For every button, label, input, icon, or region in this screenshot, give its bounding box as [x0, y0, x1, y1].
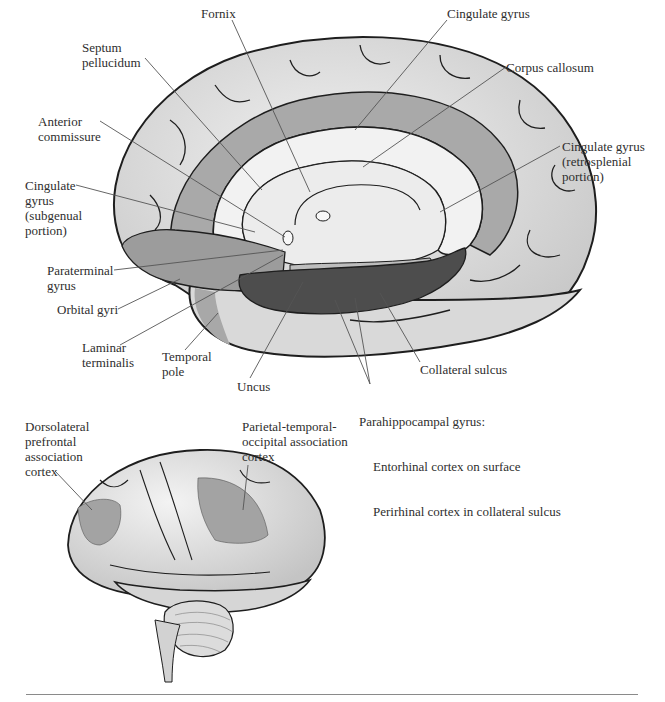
label-corpus-callosum: Corpus callosum [506, 60, 594, 75]
entorhinal-line: Entorhinal cortex on surface [359, 459, 561, 474]
label-cingulate-gyrus: Cingulate gyrus [447, 6, 530, 21]
label-orbital-gyri: Orbital gyri [57, 302, 118, 317]
mammillary-shape [316, 211, 330, 221]
label-laminar-terminalis: Laminar terminalis [82, 340, 134, 370]
label-fornix: Fornix [201, 6, 236, 21]
parahippocampal-title: Parahippocampal gyrus: [359, 414, 561, 429]
label-septum-pellucidum: Septum pellucidum [82, 40, 141, 70]
label-temporal-pole: Temporal pole [162, 349, 212, 379]
perirhinal-line: Perirhinal cortex in collateral sulcus [359, 504, 561, 519]
label-anterior-commissure: Anterior commissure [38, 114, 101, 144]
label-dorsolateral-prefrontal: Dorsolateral prefrontal association cort… [25, 419, 89, 479]
label-cingulate-subgenual: Cingulate gyrus (subgenual portion) [25, 178, 82, 238]
label-collateral-sulcus: Collateral sulcus [420, 362, 507, 377]
brainstem [155, 620, 180, 682]
bottom-rule [26, 694, 638, 695]
anterior-commissure-shape [283, 231, 293, 245]
label-parietal-temporal-occipital: Parietal-temporal- occipital association… [242, 419, 348, 464]
lateral-hemisphere [68, 450, 325, 682]
label-uncus: Uncus [237, 379, 270, 394]
label-paraterminal-gyrus: Paraterminal gyrus [47, 263, 113, 293]
label-parahippocampal-gyrus: Parahippocampal gyrus: Entorhinal cortex… [359, 384, 561, 534]
label-cingulate-retrosplenial: Cingulate gyrus (retrosplenial portion) [562, 139, 645, 184]
